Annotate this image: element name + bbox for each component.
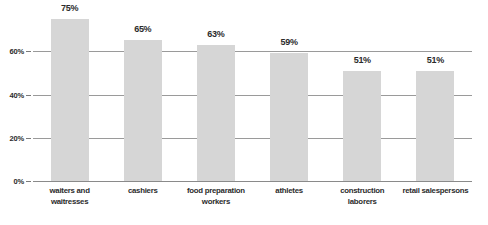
bar[interactable]: 51%: [416, 71, 454, 181]
bar[interactable]: 51%: [343, 71, 381, 181]
gridline: 60%: [33, 51, 472, 52]
category-label-line: retail salespersons: [380, 186, 488, 197]
y-tick-mark: [26, 181, 31, 182]
bar[interactable]: 65%: [124, 40, 162, 181]
y-axis-tick-label: 60%: [10, 47, 24, 56]
category-label-line: workers: [161, 197, 271, 208]
y-axis-tick-label: 20%: [10, 133, 24, 142]
y-axis-tick-label: 40%: [10, 90, 24, 99]
bar-value-label: 51%: [427, 55, 444, 65]
plot-area: 0%20%40%60% 75%65%63%59%51%51%: [33, 8, 472, 181]
bar-value-label: 75%: [61, 3, 78, 13]
bar[interactable]: 63%: [197, 45, 235, 181]
category-label-line: waitresses: [15, 197, 125, 208]
bar-value-label: 59%: [281, 37, 298, 47]
y-axis-tick-label: 0%: [14, 177, 24, 186]
bar[interactable]: 59%: [270, 53, 308, 181]
gridline: 40%: [33, 95, 472, 96]
y-tick-mark: [26, 51, 31, 52]
bar-value-label: 51%: [354, 55, 371, 65]
bar[interactable]: 75%: [51, 19, 89, 181]
category-label-line: laborers: [307, 197, 417, 208]
bar-value-label: 63%: [207, 29, 224, 39]
bar-chart: 0%20%40%60% 75%65%63%59%51%51% waiters a…: [0, 0, 488, 225]
bar-value-label: 65%: [134, 24, 151, 34]
category-label: retail salespersons: [380, 186, 488, 197]
y-tick-mark: [26, 138, 31, 139]
gridline: 20%: [33, 138, 472, 139]
y-tick-mark: [26, 95, 31, 96]
axis-baseline: 0%: [33, 181, 472, 182]
